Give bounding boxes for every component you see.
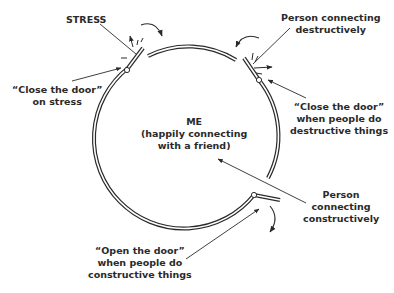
- label-line: on stress: [12, 96, 102, 108]
- label-line: Person connecting: [281, 12, 380, 24]
- label-line: constructively: [303, 213, 379, 225]
- stress-curved-arrow: [141, 24, 162, 36]
- label-line: “Close the door”: [12, 84, 102, 96]
- label-person-constructive: Person connecting constructively: [303, 189, 379, 225]
- label-me-title: ME: [141, 116, 247, 128]
- destructive-door: [236, 28, 306, 98]
- label-stress: STRESS: [66, 14, 106, 26]
- constructive-door-hinge: [251, 192, 256, 197]
- label-close-door-destructive: “Close the door” when people do destruct…: [290, 101, 388, 137]
- label-stress-text: STRESS: [66, 14, 106, 26]
- label-line: when people do: [290, 113, 388, 125]
- label-line: destructively: [281, 24, 380, 36]
- label-line: with a friend): [141, 140, 247, 152]
- label-me-center: ME (happily connecting with a friend): [141, 116, 247, 152]
- label-line: “Open the door”: [88, 245, 192, 257]
- constructive-curved-arrow: [270, 206, 275, 232]
- label-line: constructive things: [88, 269, 192, 281]
- label-open-door-constructive: “Open the door” when people do construct…: [88, 245, 192, 281]
- label-line: when people do: [88, 257, 192, 269]
- constructive-door: [186, 159, 306, 259]
- label-line: connecting: [303, 201, 379, 213]
- destructive-curved-arrow: [236, 36, 259, 47]
- label-line: “Close the door”: [290, 101, 388, 113]
- label-line: destructive things: [290, 125, 388, 137]
- stress-door: [72, 24, 162, 81]
- label-line: (happily connecting: [141, 128, 247, 140]
- destructive-door-hinge: [256, 77, 261, 82]
- stress-door-hinge: [124, 67, 129, 72]
- label-line: Person: [303, 189, 379, 201]
- label-person-destructive: Person connecting destructively: [281, 12, 380, 36]
- label-close-door-stress: “Close the door” on stress: [12, 84, 102, 108]
